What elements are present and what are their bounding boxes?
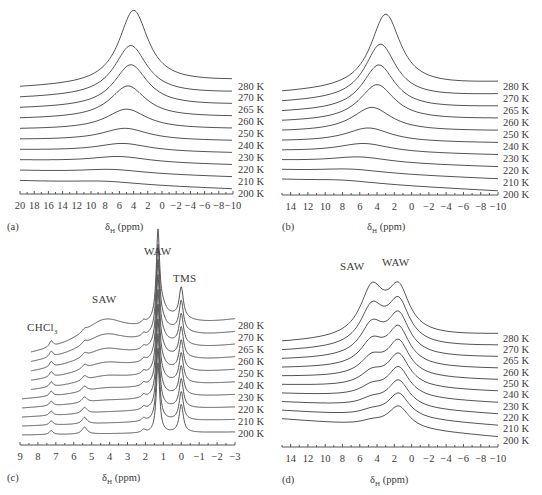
x-tick-label: 8 bbox=[340, 201, 345, 212]
temperature-label: 250 K bbox=[503, 378, 529, 389]
spectrum-d-270k bbox=[282, 297, 498, 350]
x-tick-label: 6 bbox=[71, 451, 76, 462]
temperature-label: 240 K bbox=[238, 380, 264, 391]
temperature-label: 230 K bbox=[238, 152, 264, 163]
temperature-label: 200 K bbox=[238, 188, 264, 199]
temperature-label: 260 K bbox=[238, 116, 264, 127]
x-tick-label: −8 bbox=[213, 200, 224, 211]
panel-tag-a: (a) bbox=[7, 221, 19, 233]
spectrum-d-240k bbox=[282, 353, 498, 391]
x-tick-label: 6 bbox=[357, 453, 362, 464]
x-tick-label: −1 bbox=[194, 451, 205, 462]
x-tick-label: 16 bbox=[43, 200, 54, 211]
temperature-labels-a: 280 K270 K265 K260 K250 K240 K230 K220 K… bbox=[238, 81, 264, 199]
x-tick-label: 4 bbox=[374, 453, 380, 464]
temperature-label: 230 K bbox=[503, 153, 529, 164]
x-tick-label: −8 bbox=[475, 201, 486, 212]
spectrum-d-200k bbox=[282, 406, 498, 437]
x-tick-label: 9 bbox=[17, 451, 22, 462]
temperature-label: 240 K bbox=[503, 389, 529, 400]
x-tick-label: −10 bbox=[490, 201, 506, 212]
x-tick-label: 0 bbox=[179, 451, 184, 462]
x-tick-label: −3 bbox=[229, 451, 240, 462]
annotation-waw-d: WAW bbox=[382, 256, 410, 268]
temperature-label: 240 K bbox=[503, 141, 529, 152]
x-tick-label: 6 bbox=[117, 200, 122, 211]
x-tick-label: 14 bbox=[285, 453, 296, 464]
panel-tag-c: (c) bbox=[7, 472, 19, 484]
spectra-curves-d bbox=[282, 282, 498, 437]
temperature-label: 210 K bbox=[503, 177, 529, 188]
x-tick-label: −4 bbox=[441, 201, 453, 212]
spectrum-200k bbox=[282, 179, 498, 191]
spectrum-230k bbox=[20, 144, 232, 153]
panel-tag-b: (b) bbox=[282, 221, 295, 233]
x-axis-c: 9876543210−1−2−3 bbox=[17, 442, 240, 462]
x-tick-label: −4 bbox=[441, 453, 453, 464]
x-tick-label: −10 bbox=[490, 453, 506, 464]
x-axis-title-c: δH (ppm) bbox=[102, 472, 141, 486]
x-tick-label: 10 bbox=[320, 201, 331, 212]
spectrum-210k bbox=[282, 169, 498, 179]
spectrum-d-265k bbox=[282, 311, 498, 358]
panel-b-chart: 280 K270 K265 K260 K250 K240 K230 K220 K… bbox=[282, 14, 529, 235]
x-axis-title-b: δH (ppm) bbox=[367, 221, 406, 235]
temperature-label: 250 K bbox=[238, 128, 264, 139]
x-axis-title-d: δH (ppm) bbox=[370, 474, 409, 488]
spectrum-c-270k bbox=[31, 244, 235, 361]
spectra-curves-a bbox=[20, 10, 232, 188]
x-tick-label: 7 bbox=[53, 451, 58, 462]
spectrum-260k bbox=[282, 85, 498, 121]
spectrum-220k bbox=[282, 157, 498, 167]
annotation-tms-c: TMS bbox=[173, 272, 197, 284]
x-tick-label: 2 bbox=[145, 200, 150, 211]
x-tick-label: 1 bbox=[161, 451, 166, 462]
temperature-label: 270 K bbox=[238, 92, 264, 103]
x-tick-label: −6 bbox=[458, 201, 469, 212]
x-tick-label: −6 bbox=[199, 200, 210, 211]
spectrum-280k bbox=[282, 14, 498, 91]
temperature-label: 220 K bbox=[238, 164, 264, 175]
x-tick-label: 2 bbox=[392, 201, 397, 212]
panel-a-chart: 280 K270 K265 K260 K250 K240 K230 K220 K… bbox=[7, 10, 264, 235]
temperature-label: 265 K bbox=[503, 355, 529, 366]
spectrum-d-210k bbox=[282, 393, 498, 425]
temperature-labels-c: 280 K270 K265 K260 K250 K240 K230 K220 K… bbox=[238, 320, 264, 439]
temperature-label: 260 K bbox=[503, 117, 529, 128]
temperature-label: 250 K bbox=[503, 129, 529, 140]
x-tick-label: −2 bbox=[171, 200, 182, 211]
temperature-label: 200 K bbox=[503, 435, 529, 446]
x-tick-label: 0 bbox=[409, 453, 414, 464]
x-tick-label: 3 bbox=[125, 451, 130, 462]
temperature-label: 280 K bbox=[503, 81, 529, 92]
x-tick-label: 10 bbox=[86, 200, 97, 211]
x-tick-label: −8 bbox=[475, 453, 486, 464]
x-tick-label: 4 bbox=[131, 200, 137, 211]
x-axis-d: 14121086420−2−4−6−8−10 bbox=[282, 444, 506, 464]
x-tick-label: 10 bbox=[320, 453, 331, 464]
temperature-label: 210 K bbox=[503, 423, 529, 434]
temperature-label: 200 K bbox=[503, 189, 529, 200]
temperature-label: 220 K bbox=[238, 404, 264, 415]
x-tick-label: 0 bbox=[409, 201, 414, 212]
temperature-label: 260 K bbox=[503, 367, 529, 378]
panel-c-chart: 280 K270 K265 K260 K250 K240 K230 K220 K… bbox=[7, 229, 264, 486]
spectrum-250k bbox=[20, 109, 232, 128]
temperature-labels-b: 280 K270 K265 K260 K250 K240 K230 K220 K… bbox=[503, 81, 529, 200]
nmr-spectra-figure: 280 K270 K265 K260 K250 K240 K230 K220 K… bbox=[0, 0, 542, 495]
panel-d-chart: 280 K270 K265 K260 K250 K240 K230 K220 K… bbox=[282, 256, 529, 488]
annotation-saw-d: SAW bbox=[340, 260, 365, 272]
temperature-label: 270 K bbox=[503, 93, 529, 104]
annotation-saw-c: SAW bbox=[92, 293, 117, 305]
spectrum-c-280k bbox=[31, 229, 235, 352]
spectrum-200k bbox=[20, 180, 232, 188]
temperature-label: 270 K bbox=[503, 344, 529, 355]
x-tick-label: 0 bbox=[159, 200, 164, 211]
temperature-label: 280 K bbox=[238, 81, 264, 92]
temperature-label: 265 K bbox=[238, 344, 264, 355]
temperature-label: 230 K bbox=[503, 401, 529, 412]
spectrum-240k bbox=[20, 128, 232, 140]
temperature-label: 280 K bbox=[503, 333, 529, 344]
x-tick-label: 12 bbox=[303, 453, 314, 464]
x-tick-label: −2 bbox=[423, 453, 434, 464]
